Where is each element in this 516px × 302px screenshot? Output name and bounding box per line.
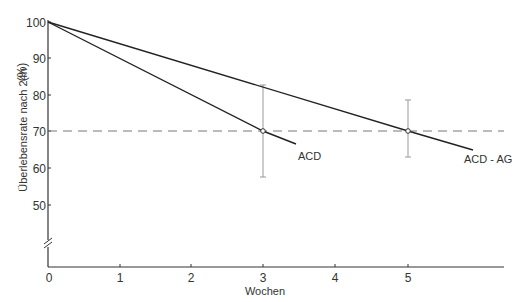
y-axis-title: Überlebensrate nach 24h [17, 68, 29, 192]
series-label-acd: ACD [298, 150, 321, 162]
marker-acd [261, 129, 266, 134]
y-tick-labels: 100 90 80 70 60 50 [26, 16, 46, 213]
x-tick-1: 1 [117, 271, 124, 285]
x-tick-3: 3 [260, 271, 267, 285]
x-tick-5: 5 [405, 271, 412, 285]
x-tick-2: 2 [188, 271, 195, 285]
y-tick-50: 50 [33, 199, 47, 213]
y-axis-label: Überlebensrate nach 24h [17, 68, 29, 192]
y-tick-70: 70 [33, 125, 47, 139]
x-tick-labels: 0 1 2 3 4 5 [46, 271, 412, 285]
chart-svg: 100 90 80 70 60 50 0 1 2 3 4 5 Wochen Üb… [0, 0, 516, 302]
y-tick-60: 60 [33, 162, 47, 176]
y-axis-unit: (%) [15, 63, 29, 82]
series-line-acd [48, 22, 296, 144]
y-tick-80: 80 [33, 89, 47, 103]
y-axis-unit-label: (%) [15, 63, 29, 82]
x-tick-0: 0 [46, 271, 53, 285]
x-tick-4: 4 [332, 271, 339, 285]
series-label-acd-ag: ACD - AG [464, 153, 512, 165]
survival-chart: 100 90 80 70 60 50 0 1 2 3 4 5 Wochen Üb… [0, 0, 516, 302]
marker-acd-ag [406, 129, 411, 134]
y-tick-90: 90 [33, 52, 47, 66]
y-tick-100: 100 [26, 16, 46, 30]
x-axis-label: Wochen [245, 285, 285, 297]
